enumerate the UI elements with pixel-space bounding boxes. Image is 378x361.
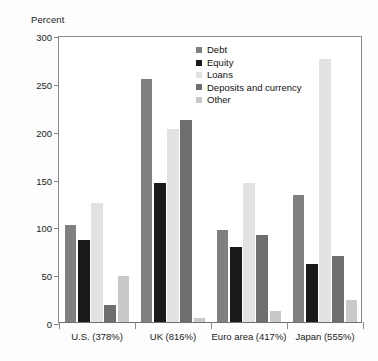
x-axis-tick-mark	[287, 322, 288, 329]
bar[interactable]	[230, 247, 242, 322]
bar-group	[59, 37, 135, 322]
bar[interactable]	[217, 230, 229, 322]
legend-item-label: Other	[207, 95, 231, 105]
bar[interactable]	[180, 120, 192, 322]
legend-swatch-icon	[196, 47, 202, 53]
bar[interactable]	[243, 183, 255, 322]
bar[interactable]	[256, 235, 268, 322]
x-axis-tick-label: UK (816%)	[150, 331, 196, 342]
legend-swatch-icon	[196, 97, 202, 103]
bar[interactable]	[141, 79, 153, 322]
x-axis-tick-label: U.S. (378%)	[71, 331, 123, 342]
bar[interactable]	[319, 59, 331, 322]
bar[interactable]	[306, 264, 318, 322]
chart-legend: DebtEquityLoansDeposits and currencyOthe…	[196, 44, 302, 106]
x-axis-tick-mark	[363, 322, 364, 329]
legend-item-label: Equity	[207, 58, 233, 68]
bar[interactable]	[154, 183, 166, 322]
bar[interactable]	[118, 276, 130, 322]
legend-item[interactable]: Equity	[196, 56, 302, 68]
x-axis-tick-mark	[59, 322, 60, 329]
bar[interactable]	[104, 305, 116, 322]
chart-figure: Percent 050100150200250300 U.S. (378%)UK…	[0, 0, 378, 361]
x-axis-tick-mark	[135, 322, 136, 329]
legend-item-label: Debt	[207, 45, 227, 55]
legend-item[interactable]: Debt	[196, 44, 302, 56]
legend-swatch-icon	[196, 72, 202, 78]
bar[interactable]	[332, 256, 344, 322]
bar[interactable]	[346, 300, 358, 322]
bar[interactable]	[167, 129, 179, 322]
legend-item[interactable]: Loans	[196, 69, 302, 81]
bar[interactable]	[270, 311, 282, 322]
x-axis-tick-mark	[211, 322, 212, 329]
x-axis-tick-label: Euro area (417%)	[212, 331, 287, 342]
bar[interactable]	[194, 318, 206, 322]
legend-item[interactable]: Other	[196, 94, 302, 106]
legend-swatch-icon	[196, 60, 202, 66]
legend-item-label: Loans	[207, 70, 233, 80]
x-axis-tick-label: Japan (555%)	[295, 331, 354, 342]
legend-swatch-icon	[196, 84, 202, 90]
bar[interactable]	[65, 225, 77, 322]
bar[interactable]	[293, 195, 305, 322]
legend-item-label: Deposits and currency	[207, 83, 302, 93]
y-axis-title: Percent	[31, 14, 64, 25]
legend-item[interactable]: Deposits and currency	[196, 81, 302, 93]
bar[interactable]	[78, 240, 90, 322]
bar[interactable]	[91, 203, 103, 322]
